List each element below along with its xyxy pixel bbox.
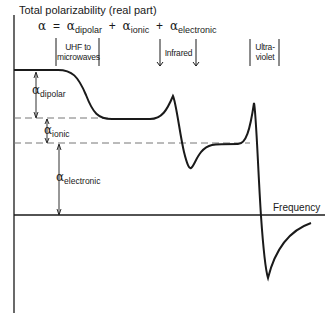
region-label-uhf: UHF to microwaves [57,43,99,63]
region-uhf-line2: microwaves [57,53,99,63]
eq-term-dipolar-symbol: α [67,19,75,33]
eq-term-electronic-symbol: α [170,19,178,33]
alpha-dipolar-sub: dipolar [40,89,66,99]
region-uv-line2: violet [251,53,279,63]
eq-equals: = [53,19,60,33]
eq-term-electronic-sub: electronic [178,25,217,35]
chart-title: Total polarizability (real part) [19,5,157,16]
alpha-ionic-sub: ionic [52,129,69,139]
alpha-electronic-symbol: α [56,170,64,184]
label-alpha-dipolar: αdipolar [32,84,66,96]
eq-plus-2: + [156,19,163,33]
eq-term-dipolar-sub: dipolar [75,25,102,35]
eq-lhs: α [38,19,46,33]
label-alpha-electronic: αelectronic [56,171,101,183]
eq-term-ionic-sub: ionic [131,25,150,35]
label-alpha-ionic: αionic [44,124,70,136]
alpha-dipolar-symbol: α [32,83,40,97]
alpha-electronic-sub: electronic [64,176,100,186]
region-infrared-line1: Infrared [161,49,196,59]
polarizability-equation: α = αdipolar + αionic + αelectronic [38,20,217,32]
eq-plus-1: + [109,19,116,33]
x-axis-label: Frequency [273,203,320,213]
alpha-ionic-symbol: α [44,123,52,137]
region-label-uv: Ultra- violet [251,43,279,63]
eq-term-ionic-symbol: α [123,19,131,33]
region-label-infrared: Infrared [161,49,196,59]
